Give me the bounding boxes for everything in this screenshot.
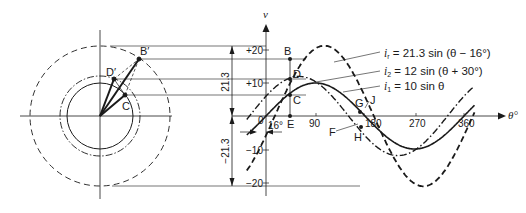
equation-i1: i1 = 10 sin θ bbox=[384, 80, 445, 93]
label-d-prime: D′ bbox=[106, 66, 116, 78]
dimension-upper: 21.3 bbox=[220, 72, 231, 92]
point-c-wave bbox=[288, 93, 292, 97]
theta-axis-arrow-icon bbox=[498, 113, 506, 120]
phasor-waveform-diagram: B′ D′ C bbox=[0, 0, 526, 213]
label-g: G bbox=[355, 97, 364, 109]
label-d: D bbox=[293, 68, 301, 80]
phase-shift-label: 16° bbox=[268, 120, 283, 131]
y-tick-10: +10 bbox=[246, 78, 263, 89]
theta-axis-label: θ° bbox=[508, 109, 518, 121]
equation-i2: i2 = 12 sin (θ + 30°) bbox=[384, 65, 483, 78]
equation-leaders bbox=[316, 52, 380, 92]
y-tick-neg10: −10 bbox=[246, 145, 263, 156]
x-tick-180: 180 bbox=[365, 118, 382, 129]
equation-ir: ir = 21.3 sin (θ − 16°) bbox=[384, 47, 491, 60]
v-axis-label: v bbox=[263, 8, 268, 20]
label-c: C bbox=[293, 94, 301, 106]
x-tick-90: 90 bbox=[309, 118, 321, 129]
point-g bbox=[358, 110, 362, 114]
label-e: E bbox=[287, 118, 294, 130]
y-tick-20: +20 bbox=[246, 45, 263, 56]
label-c-phasor: C bbox=[122, 100, 130, 112]
label-f: F bbox=[329, 126, 336, 138]
v-axis-arrow-icon bbox=[263, 24, 270, 32]
label-h: H bbox=[354, 131, 362, 143]
label-b: B bbox=[284, 45, 291, 57]
x-tick-360: 360 bbox=[458, 118, 475, 129]
equations: ir = 21.3 sin (θ − 16°) i2 = 12 sin (θ +… bbox=[384, 47, 491, 93]
x-tick-270: 270 bbox=[409, 118, 426, 129]
y-tick-neg20: −20 bbox=[246, 178, 263, 189]
dimension-lower: −21.3 bbox=[220, 138, 231, 164]
label-j: J bbox=[370, 94, 376, 106]
point-b bbox=[288, 57, 292, 61]
point-d bbox=[288, 77, 292, 81]
x-tick-0: 0 bbox=[258, 115, 264, 126]
label-b-prime: B′ bbox=[140, 45, 149, 57]
point-h bbox=[359, 125, 363, 129]
